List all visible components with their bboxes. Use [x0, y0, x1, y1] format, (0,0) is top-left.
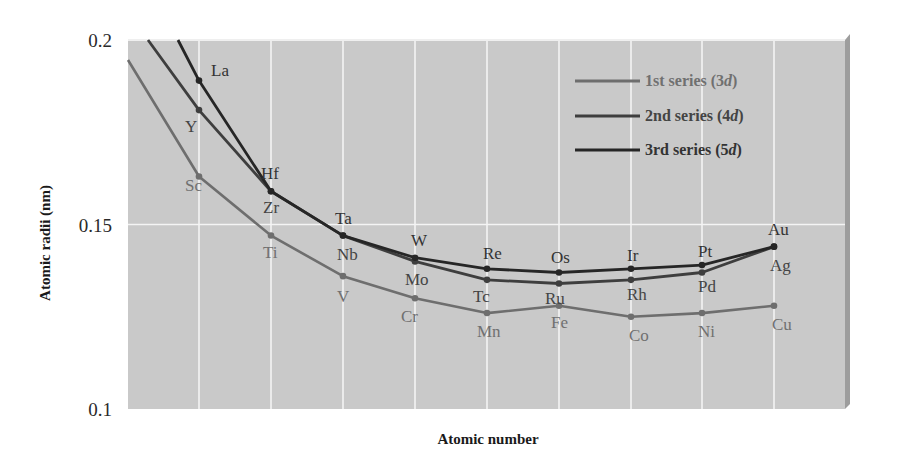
element-label-y: Y	[185, 117, 197, 136]
element-label-fe: Fe	[551, 313, 568, 332]
data-point-cu	[771, 302, 778, 309]
data-point-co	[628, 313, 635, 320]
element-label-tc: Tc	[473, 287, 490, 306]
data-point-ir	[628, 265, 635, 272]
legend-label: 1st series (3d)	[645, 72, 737, 90]
element-label-mn: Mn	[477, 322, 501, 341]
legend-label: 2nd series (4d)	[645, 107, 744, 125]
y-tick-label: 0.15	[79, 215, 112, 236]
data-point-cr	[412, 295, 419, 302]
y-tick-label: 0.2	[88, 30, 112, 51]
element-label-ru: Ru	[545, 289, 565, 308]
element-label-pt: Pt	[698, 242, 712, 261]
element-label-hf: Hf	[261, 164, 279, 183]
data-point-hf	[268, 188, 275, 195]
element-label-nb: Nb	[337, 245, 358, 264]
y-axis-title: Atomic radii (nm)	[37, 185, 54, 301]
element-label-ta: Ta	[335, 209, 352, 228]
data-point-re	[484, 265, 491, 272]
element-label-la: La	[211, 61, 229, 80]
legend-label: 3rd series (5d)	[645, 141, 742, 159]
plot-area	[128, 34, 850, 409]
element-label-ir: Ir	[627, 246, 639, 265]
data-point-ti	[268, 232, 275, 239]
element-label-pd: Pd	[698, 277, 716, 296]
data-point-ni	[699, 310, 706, 317]
data-point-tc	[484, 277, 491, 284]
element-label-ag: Ag	[770, 256, 791, 275]
element-label-sc: Sc	[185, 176, 202, 195]
element-label-rh: Rh	[627, 285, 647, 304]
element-label-cr: Cr	[401, 307, 418, 326]
data-point-y	[196, 107, 203, 114]
y-axis-ticks: 0.10.150.2	[79, 30, 112, 420]
data-point-pd	[699, 269, 706, 276]
element-label-w: W	[411, 231, 428, 250]
data-point-la	[196, 77, 203, 84]
element-label-ti: Ti	[263, 243, 278, 262]
data-point-pt	[699, 262, 706, 269]
element-label-au: Au	[768, 220, 789, 239]
element-label-os: Os	[551, 248, 570, 267]
plot-side-shadow	[845, 34, 850, 409]
data-point-mn	[484, 310, 491, 317]
data-point-v	[340, 273, 347, 280]
x-axis-title: Atomic number	[437, 431, 539, 447]
element-label-re: Re	[483, 244, 502, 263]
data-point-os	[556, 269, 563, 276]
data-point-ru	[556, 280, 563, 287]
y-tick-label: 0.1	[88, 399, 112, 420]
data-point-ta	[340, 232, 347, 239]
element-label-v: V	[337, 287, 350, 306]
element-label-cu: Cu	[772, 315, 792, 334]
element-label-ni: Ni	[698, 322, 715, 341]
element-label-zr: Zr	[263, 198, 279, 217]
atomic-radii-chart: 0.10.150.2 Atomic radii (nm) Atomic numb…	[0, 0, 897, 462]
data-point-w	[412, 254, 419, 261]
data-point-rh	[628, 277, 635, 284]
data-point-au	[771, 243, 778, 250]
element-label-mo: Mo	[405, 270, 429, 289]
element-label-co: Co	[629, 326, 649, 345]
